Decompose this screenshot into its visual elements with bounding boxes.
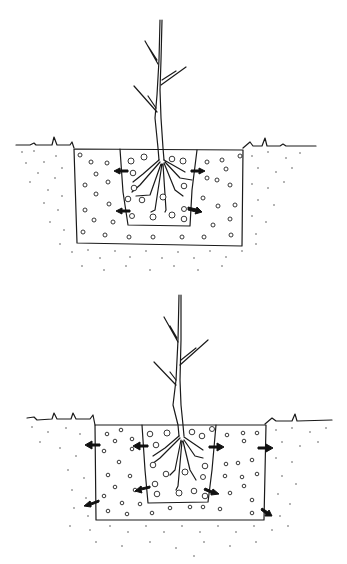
tree-stem	[155, 20, 164, 160]
arrow-right-down-icon	[261, 508, 272, 516]
tree-roots	[152, 436, 203, 490]
arrow-left-icon	[116, 208, 130, 214]
arrow-right-down-icon	[188, 207, 202, 214]
arrow-left-down-icon	[84, 500, 99, 507]
panel-small-hole	[16, 20, 316, 271]
outer-hole-outline	[95, 425, 266, 520]
planting-hole-illustration	[0, 0, 347, 564]
arrow-left-icon	[133, 442, 148, 450]
arrow-left-down-icon	[135, 486, 150, 493]
arrow-left-icon	[85, 441, 100, 449]
arrow-right-icon	[209, 443, 224, 451]
tree-stem	[173, 295, 184, 436]
arrow-right-icon	[258, 444, 273, 452]
panel-large-hole	[27, 295, 332, 557]
ground-line	[27, 413, 332, 425]
arrow-right-icon	[191, 168, 205, 174]
ground-line	[16, 137, 316, 148]
